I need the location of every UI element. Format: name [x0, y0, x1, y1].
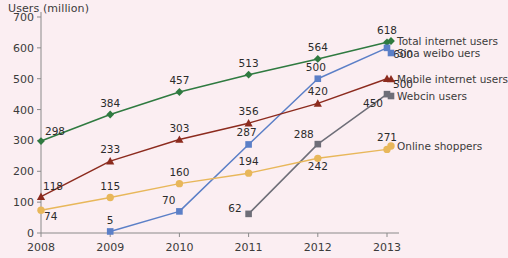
y-tick-label: 600 — [13, 42, 34, 55]
x-tick-label: 2009 — [96, 241, 124, 254]
data-label: 303 — [169, 122, 189, 134]
x-tick-label: 2010 — [165, 241, 193, 254]
data-label: 384 — [100, 97, 120, 109]
series-online-shoppers: 74115160194242271 — [37, 131, 397, 222]
data-point-marker — [37, 192, 45, 199]
y-tick-label: 700 — [13, 11, 34, 24]
data-label: 160 — [169, 166, 189, 178]
data-point-marker — [37, 137, 45, 145]
y-tick-label: 100 — [13, 196, 34, 209]
legend-label-0: Total internet users — [397, 36, 498, 47]
data-label: 500 — [306, 61, 326, 73]
data-label: 118 — [43, 180, 63, 192]
y-tick-label: 300 — [13, 134, 34, 147]
series-total-internet-users: 298384457513564618 — [37, 24, 397, 145]
data-label: 618 — [377, 24, 397, 36]
data-point-marker — [107, 228, 114, 235]
data-label: 62 — [228, 202, 241, 214]
legend-marker — [388, 93, 395, 100]
data-label: 298 — [45, 125, 65, 137]
series-line — [41, 42, 387, 141]
x-tick-label: 2011 — [235, 241, 263, 254]
x-tick-label: 2013 — [373, 241, 401, 254]
data-label: 242 — [308, 160, 328, 172]
data-point-marker — [245, 169, 252, 176]
data-point-marker — [107, 194, 114, 201]
y-tick-label: 500 — [13, 73, 34, 86]
data-label: 194 — [239, 155, 259, 167]
y-tick-label: 400 — [13, 104, 34, 117]
legend-marker — [387, 142, 394, 149]
data-label: 74 — [44, 210, 58, 222]
data-point-marker — [176, 208, 183, 215]
legend-label-1: Sina weibo uers — [397, 48, 480, 59]
data-label: 513 — [239, 57, 259, 69]
data-point-marker — [245, 211, 252, 218]
legend-label-3: Webcin users — [397, 91, 467, 102]
y-tick-label: 200 — [13, 165, 34, 178]
data-label: 288 — [294, 128, 314, 140]
series-sina-weibo-uers: 570287500600 — [107, 45, 413, 235]
data-point-marker — [106, 111, 114, 119]
legend-marker — [388, 50, 395, 57]
data-point-marker — [245, 141, 252, 148]
legend-label-4: Online shoppers — [397, 141, 482, 152]
data-label: 356 — [239, 105, 259, 117]
x-tick-label: 2012 — [304, 241, 332, 254]
data-point-marker — [315, 75, 322, 82]
x-tick-label: 2008 — [27, 241, 55, 254]
y-tick-label: 0 — [27, 227, 34, 240]
data-label: 271 — [377, 131, 397, 143]
data-label: 564 — [308, 41, 328, 53]
series-line — [41, 149, 387, 210]
data-label: 5 — [107, 214, 114, 226]
data-label: 420 — [308, 85, 328, 97]
data-point-marker — [176, 88, 184, 96]
data-label: 287 — [237, 126, 257, 138]
data-label: 115 — [100, 180, 120, 192]
data-label: 450 — [363, 97, 383, 109]
data-point-marker — [245, 71, 253, 79]
data-point-marker — [315, 141, 322, 148]
legend-label-2: Mobile internet users — [397, 74, 508, 85]
data-label: 70 — [162, 194, 175, 206]
data-point-marker — [176, 180, 183, 187]
data-label: 233 — [100, 143, 120, 155]
series-mobile-internet-users: 118233303356420500 — [37, 75, 413, 200]
series-line — [249, 94, 387, 214]
data-label: 457 — [169, 74, 189, 86]
